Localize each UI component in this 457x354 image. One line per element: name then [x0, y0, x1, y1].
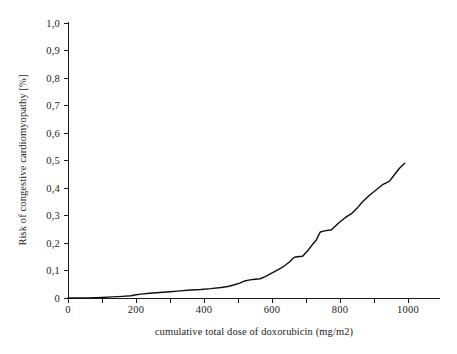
- y-axis-tick-labels: 00,10,20,30,40,50,60,70,80,91,0: [46, 18, 60, 304]
- y-axis-tick-label: 1,0: [46, 18, 60, 29]
- x-axis-tick-label: 200: [128, 304, 144, 315]
- y-axis-tick-label: 0,2: [46, 238, 60, 249]
- y-axis-tick-label: 0,3: [46, 210, 60, 221]
- x-axis-tick-label: 1000: [397, 304, 419, 315]
- y-axis-tick-label: 0,9: [46, 45, 60, 56]
- risk-line-chart: 00,10,20,30,40,50,60,70,80,91,0 02004006…: [0, 0, 457, 354]
- y-axis-tick-label: 0,6: [46, 128, 60, 139]
- y-axis-tick-label: 0,4: [46, 183, 60, 194]
- x-axis-tick-label: 800: [332, 304, 348, 315]
- x-axis-tick-label: 400: [196, 304, 212, 315]
- chart-figure: 00,10,20,30,40,50,60,70,80,91,0 02004006…: [0, 0, 457, 354]
- x-axis-tick-labels: 02004006008001000: [65, 304, 419, 315]
- risk-data-curve: [68, 163, 405, 298]
- y-axis-tick-label: 0,7: [46, 100, 60, 111]
- y-axis-title: Risk of congestive cardiomyopathy [%]: [17, 74, 28, 245]
- x-axis-title: cumulative total dose of doxorubicin (mg…: [155, 326, 354, 338]
- x-axis-tick-label: 0: [65, 304, 70, 315]
- x-axis-tick-label: 600: [264, 304, 280, 315]
- y-axis-tick-label: 0,5: [46, 155, 60, 166]
- y-axis-tick-label: 0: [55, 293, 60, 304]
- tick-marks-group: [64, 23, 409, 303]
- y-axis-tick-label: 0,8: [46, 73, 60, 84]
- y-axis-tick-label: 0,1: [46, 265, 60, 276]
